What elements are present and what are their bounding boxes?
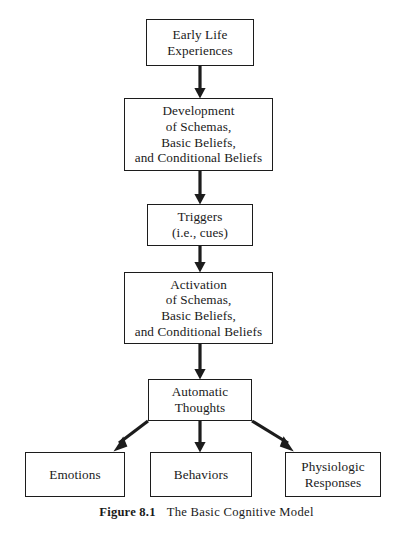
figure-caption: Figure 8.1The Basic Cognitive Model bbox=[0, 505, 413, 520]
node-early-life-experiences-label: Early Life Experiences bbox=[162, 27, 238, 58]
node-triggers-label: Triggers (i.e., cues) bbox=[167, 209, 233, 240]
node-triggers: Triggers (i.e., cues) bbox=[147, 204, 253, 246]
node-emotions: Emotions bbox=[25, 452, 125, 497]
figure-container: Early Life Experiences Development of Sc… bbox=[0, 0, 413, 534]
node-physiologic-responses-label: Physiologic Responses bbox=[296, 459, 369, 491]
arrowhead-activation-to-automatic bbox=[194, 369, 205, 380]
arrowhead-development-to-triggers bbox=[194, 194, 205, 205]
node-automatic-thoughts: Automatic Thoughts bbox=[148, 379, 252, 421]
arrowhead-triggers-to-activation bbox=[194, 262, 205, 273]
node-physiologic-responses: Physiologic Responses bbox=[285, 452, 381, 497]
arrowhead-early-life-to-development bbox=[194, 88, 205, 99]
figure-caption-title: The Basic Cognitive Model bbox=[167, 505, 314, 519]
node-automatic-thoughts-label: Automatic Thoughts bbox=[167, 384, 234, 415]
node-activation-of-schemas-label: Activation of Schemas, Basic Beliefs, an… bbox=[130, 277, 268, 339]
node-activation-of-schemas: Activation of Schemas, Basic Beliefs, an… bbox=[124, 272, 273, 344]
node-development-of-schemas-label: Development of Schemas, Basic Beliefs, a… bbox=[130, 103, 268, 165]
arrowhead-automatic-to-behaviors bbox=[194, 442, 205, 453]
figure-caption-number: Figure 8.1 bbox=[99, 505, 155, 519]
node-behaviors: Behaviors bbox=[150, 452, 252, 497]
node-emotions-label: Emotions bbox=[44, 467, 105, 483]
node-early-life-experiences: Early Life Experiences bbox=[146, 19, 254, 66]
node-behaviors-label: Behaviors bbox=[169, 467, 233, 483]
node-development-of-schemas: Development of Schemas, Basic Beliefs, a… bbox=[124, 98, 273, 171]
